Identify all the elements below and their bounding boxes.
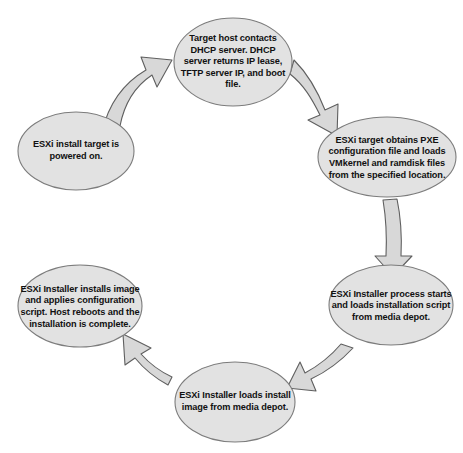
- arrow-top-to-right-upper: [290, 60, 338, 136]
- arrow-right-lower-to-bottom: [287, 344, 353, 391]
- diagram-canvas: [0, 0, 463, 453]
- arrow-right-upper-to-right-lower: [375, 199, 412, 276]
- arrow-bottom-to-left-lower: [123, 334, 172, 385]
- node-left-lower: [18, 265, 142, 347]
- node-right-lower: [329, 265, 453, 345]
- cycle-diagram: Target host contacts DHCP server. DHCP s…: [0, 0, 463, 453]
- node-top: [174, 18, 292, 106]
- node-left-upper: [18, 112, 134, 190]
- node-bottom: [175, 362, 295, 442]
- node-right: [318, 117, 456, 197]
